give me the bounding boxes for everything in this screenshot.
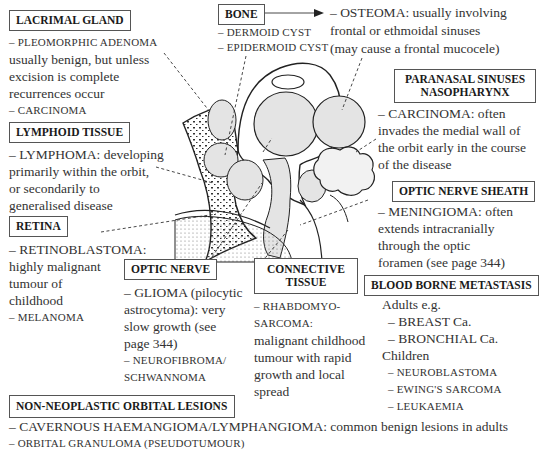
lacrimal-gland-label: LACRIMAL GLAND <box>9 10 131 31</box>
text-line: astrocytoma): very <box>124 301 242 318</box>
osteoma-text: – OSTEOMA: usually involving frontal or … <box>330 4 507 58</box>
optic-nerve-sheath-text: – MENINGIOMA: often extends intracranial… <box>378 203 513 271</box>
text-line: – LYMPHOMA: developing <box>9 146 164 163</box>
text-line: – GLIOMA (pilocytic <box>124 284 242 301</box>
text-line: or secondarily to <box>9 180 164 197</box>
text-line: – OSTEOMA: usually involving <box>330 4 507 22</box>
text-line: – NEUROFIBROMA/ <box>124 352 242 369</box>
text-line: through the optic <box>378 237 513 254</box>
text-line: growth and local <box>254 366 365 383</box>
text-line: frontal or ethmoidal sinuses <box>330 22 507 40</box>
text-line: foramen (see page 344) <box>378 254 513 271</box>
paranasal-sinuses-label: PARANASAL SINUSES NASOPHARYNX <box>394 69 536 103</box>
text-line: of the disease <box>378 156 526 173</box>
optic-nerve-label: OPTIC NERVE <box>124 259 217 280</box>
text-line: tumour with rapid <box>254 349 365 366</box>
text-line: – DERMOID CYST <box>218 25 328 40</box>
text-line: spread <box>254 383 365 400</box>
text-line: extends intracranially <box>378 220 513 237</box>
paranasal-sinuses-text: – CARCINOMA: often invades the medial wa… <box>378 105 526 173</box>
bone-label: BONE <box>218 4 265 25</box>
non-neoplastic-label: NON-NEOPLASTIC ORBITAL LESIONS <box>9 395 235 418</box>
box-title-line: PARANASAL SINUSES <box>405 73 525 86</box>
text-line: (may cause a frontal mucocele) <box>330 40 507 58</box>
text-line: – RHABDOMYO- <box>254 298 365 315</box>
text-line: slow growth (see <box>124 318 242 335</box>
blood-borne-metastasis-label: BLOOD BORNE METASTASIS <box>364 275 539 296</box>
text-line: – ORBITAL GRANULOMA (PSEUDOTUMOUR) <box>9 435 508 452</box>
text-line: – CAVERNOUS HAEMANGIOMA/LYMPHANGIOMA: co… <box>9 418 508 435</box>
text-line: – RETINOBLASTOMA: <box>9 241 146 258</box>
box-title-line: CONNECTIVE <box>267 263 345 276</box>
optic-nerve-text: – GLIOMA (pilocytic astrocytoma): very s… <box>124 284 242 386</box>
text-line: primarily within the orbit, <box>9 163 164 180</box>
text-line: – CARCINOMA: often <box>378 105 526 122</box>
lymphoid-tissue-text: – LYMPHOMA: developing primarily within … <box>9 146 164 214</box>
text-line: – MENINGIOMA: often <box>378 203 513 220</box>
non-neoplastic-text: – CAVERNOUS HAEMANGIOMA/LYMPHANGIOMA: co… <box>9 418 508 452</box>
globe-lesion <box>254 92 318 156</box>
text-line: the orbit early in the course <box>378 139 526 156</box>
text-line: invades the medial wall of <box>378 122 526 139</box>
lacrimal-gland-text: – PLEOMORPHIC ADENOMA usually benign, bu… <box>9 34 157 119</box>
text-line: – EPIDERMOID CYST <box>218 40 328 55</box>
text-line: Children <box>382 347 502 364</box>
text-line: – NEUROBLASTOMA <box>382 364 502 381</box>
text-line: SCHWANNOMA <box>124 369 242 386</box>
text-line: SARCOMA: <box>254 315 365 332</box>
blood-borne-metastasis-text: Adults e.g. – BREAST Ca. – BRONCHIAL Ca.… <box>382 296 502 415</box>
text-line: – BREAST Ca. <box>382 313 502 330</box>
text-line: excision is complete <box>9 68 157 85</box>
text-line: – PLEOMORPHIC ADENOMA <box>9 34 157 51</box>
text-line: – EWING'S SARCOMA <box>382 381 502 398</box>
text-line: – BRONCHIAL Ca. <box>382 330 502 347</box>
text-line: usually benign, but unless <box>9 51 157 68</box>
text-line: page 344) <box>124 335 242 352</box>
retina-label: RETINA <box>9 216 68 237</box>
text-line: recurrences occur <box>9 85 157 102</box>
box-title-line: NASOPHARYNX <box>405 86 525 99</box>
text-line: – CARCINOMA <box>9 102 157 119</box>
box-title-line: TISSUE <box>267 276 345 289</box>
text-line: generalised disease <box>9 197 164 214</box>
connective-tissue-text: – RHABDOMYO- SARCOMA: malignant childhoo… <box>254 298 365 400</box>
connective-tissue-label: CONNECTIVE TISSUE <box>254 258 358 294</box>
text-line: Adults e.g. <box>382 296 502 313</box>
lymphoid-tissue-label: LYMPHOID TISSUE <box>9 122 130 143</box>
text-line: malignant childhood <box>254 332 365 349</box>
optic-nerve-sheath-label: OPTIC NERVE SHEATH <box>392 181 535 202</box>
bone-text: – DERMOID CYST – EPIDERMOID CYST <box>218 25 328 55</box>
text-line: – LEUKAEMIA <box>382 398 502 415</box>
